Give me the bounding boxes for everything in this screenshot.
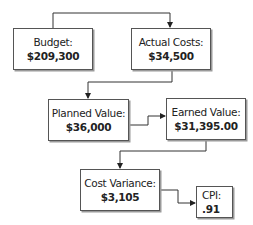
node-actual-costs: Actual Costs: $34,500 [131,28,211,70]
edge-actual-costs-to-planned-value [88,70,172,98]
node-budget: Budget: $209,300 [13,28,93,70]
node-actual-costs-value: $34,500 [148,49,194,63]
node-planned-value-label: Planned Value: [52,106,126,120]
node-cpi: CPI: .91 [196,186,233,218]
edge-earned-value-to-cost-variance [120,140,206,168]
edge-cost-variance-to-cpi [160,190,195,203]
edge-budget-to-actual-costs [53,13,170,28]
node-planned-value: Planned Value: $36,000 [48,99,129,141]
node-earned-value: Earned Value: $31,395.00 [166,98,246,140]
node-earned-value-value: $31,395.00 [174,119,237,133]
node-actual-costs-label: Actual Costs: [139,35,204,49]
node-earned-value-label: Earned Value: [172,105,241,119]
node-planned-value-value: $36,000 [66,120,112,134]
node-cost-variance: Cost Variance: $3,105 [80,169,160,211]
node-cpi-label: CPI: [202,188,221,202]
node-cpi-value: .91 [202,202,220,216]
node-cost-variance-label: Cost Variance: [84,176,155,190]
node-budget-value: $209,300 [27,49,80,63]
node-cost-variance-value: $3,105 [101,190,140,204]
edge-planned-value-to-earned-value [129,116,165,125]
node-budget-label: Budget: [33,35,72,49]
